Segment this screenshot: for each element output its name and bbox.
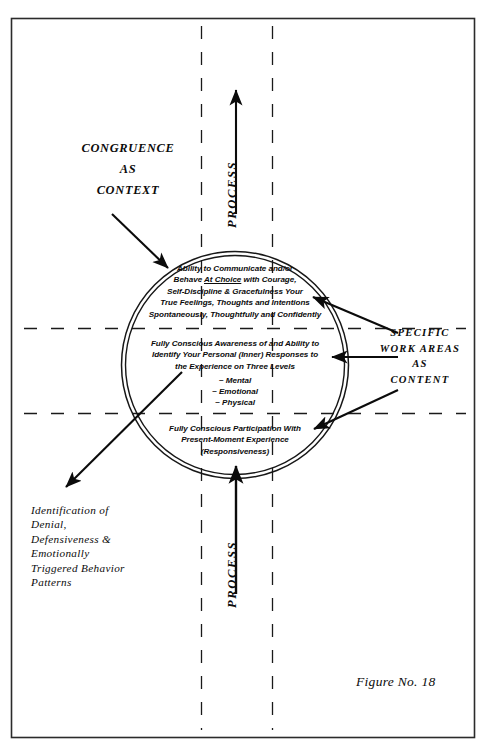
figure-caption: Figure No. 18: [356, 674, 436, 690]
congruence-line-1: CONGRUENCE: [48, 138, 208, 159]
identification-line-2: Denial,: [31, 517, 211, 531]
work-areas-line-4: CONTENT: [362, 372, 478, 388]
identification-line-1: Identification of: [31, 503, 211, 517]
band-middle-line-3: the Experience on Three Levels: [110, 361, 360, 372]
level-item-emotional: ~ Emotional: [110, 386, 360, 397]
circle-band-top: Ability to Communicate and/or Behave At …: [110, 263, 360, 320]
identification-line-3: Defensiveness &: [31, 532, 211, 546]
identification-line-6: Patterns: [31, 575, 211, 589]
label-process-top: PROCESS: [225, 161, 240, 228]
band-bottom-line-2: Present-Moment Experience: [110, 434, 360, 445]
identification-line-5: Triggered Behavior: [31, 561, 211, 575]
circle-band-bottom: Fully Conscious Participation With Prese…: [110, 423, 360, 457]
band-top-line-3: Self-Discipline & Gracefulness Your: [110, 286, 360, 297]
band-bottom-line-1: Fully Conscious Participation With: [110, 423, 360, 434]
level-item-physical: ~ Physical: [110, 397, 360, 408]
band-top-line-5: Spontaneously, Thoughtfully and Confiden…: [110, 309, 360, 320]
label-process-bottom: PROCESS: [225, 541, 240, 608]
label-congruence-as-context: CONGRUENCE AS CONTEXT: [48, 138, 208, 201]
figure-container: CONGRUENCE AS CONTEXT SPECIFIC WORK AREA…: [0, 0, 490, 752]
label-specific-work-areas: SPECIFIC WORK AREAS AS CONTENT: [362, 325, 478, 387]
circle-three-levels-list: ~ Mental ~ Emotional ~ Physical: [110, 375, 360, 409]
label-identification-of-denial: Identification of Denial, Defensiveness …: [31, 503, 211, 589]
congruence-line-3: CONTEXT: [48, 180, 208, 201]
band-middle-line-1: Fully Conscious Awareness of and Ability…: [110, 338, 360, 349]
band-top-line-4: True Feelings, Thoughts and Intentions: [110, 297, 360, 308]
band-top-line-1: Ability to Communicate and/or: [110, 263, 360, 274]
work-areas-line-1: SPECIFIC: [362, 325, 478, 341]
identification-line-4: Emotionally: [31, 546, 211, 560]
work-areas-line-3: AS: [362, 356, 478, 372]
level-item-mental: ~ Mental: [110, 375, 360, 386]
band-top-line-2: Behave At Choice with Courage,: [110, 274, 360, 285]
congruence-line-2: AS: [48, 159, 208, 180]
band-top-line-2-post: with Courage,: [241, 275, 296, 284]
band-top-line-2-underlined: At Choice: [204, 275, 241, 284]
band-top-line-2-pre: Behave: [174, 275, 204, 284]
band-middle-line-2: Identify Your Personal (Inner) Responses…: [110, 349, 360, 360]
circle-band-middle: Fully Conscious Awareness of and Ability…: [110, 338, 360, 372]
arrow-down-right-icon-congruence: [112, 214, 168, 268]
band-bottom-line-3: (Responsiveness): [110, 446, 360, 457]
work-areas-line-2: WORK AREAS: [362, 341, 478, 357]
